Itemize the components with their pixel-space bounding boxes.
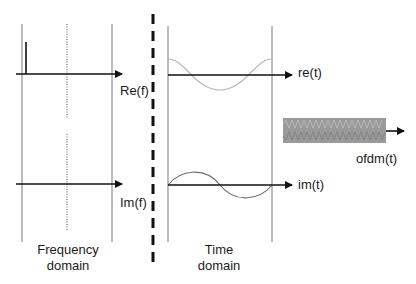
- ofdm-t-label: ofdm(t): [356, 152, 397, 166]
- frequency-caption-line1: Frequency: [28, 242, 108, 258]
- frequency-caption-line2: domain: [28, 258, 108, 274]
- time-caption-line2: domain: [184, 258, 254, 274]
- frequency-domain-caption: Frequency domain: [28, 242, 108, 274]
- re-t-label: re(t): [298, 66, 322, 80]
- time-domain-caption: Time domain: [184, 242, 254, 274]
- im-f-label: Im(f): [120, 196, 147, 210]
- im-t-label: im(t): [298, 178, 324, 192]
- ofdm-signal-block: [283, 118, 386, 143]
- re-f-label: Re(f): [120, 84, 149, 98]
- time-caption-line1: Time: [184, 242, 254, 258]
